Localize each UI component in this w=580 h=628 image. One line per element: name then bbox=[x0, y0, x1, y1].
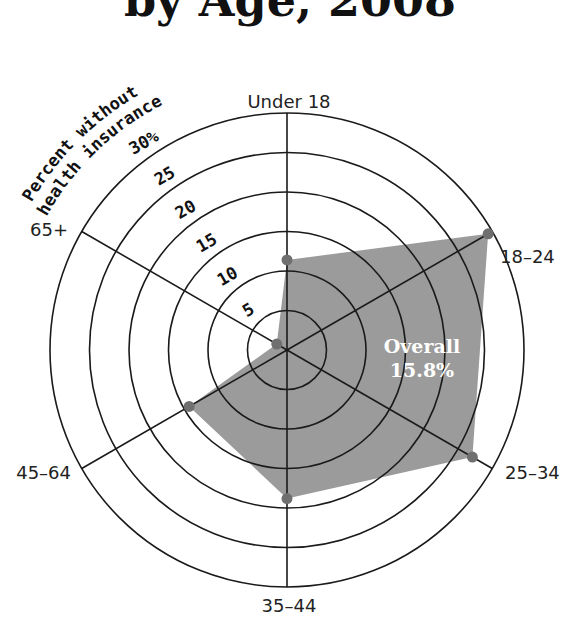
category-label-3: 35–44 bbox=[262, 595, 317, 616]
category-label-4: 45–64 bbox=[16, 462, 71, 483]
data-point-5 bbox=[271, 339, 282, 350]
tick-label-5: 5 bbox=[239, 298, 258, 320]
overall-value: 15.8% bbox=[390, 359, 454, 381]
tick-label-15: 15 bbox=[193, 229, 221, 257]
category-label-5: 65+ bbox=[30, 219, 68, 240]
data-point-2 bbox=[467, 452, 478, 463]
tick-label-20: 20 bbox=[172, 195, 200, 223]
data-point-0 bbox=[282, 254, 293, 265]
category-label-0: Under 18 bbox=[247, 91, 330, 112]
radar-chart: by Age, 2008 Under 1818–2425–3435–4445–6… bbox=[0, 0, 580, 628]
tick-label-10: 10 bbox=[213, 262, 241, 290]
tick-label-25: 25 bbox=[151, 162, 179, 190]
tick-label-30: 30% bbox=[125, 125, 162, 158]
overall-label: Overall bbox=[384, 335, 460, 357]
axis-title-line-1: Percent without bbox=[18, 81, 141, 205]
data-point-1 bbox=[483, 228, 494, 239]
data-point-3 bbox=[282, 493, 293, 504]
category-label-1: 18–24 bbox=[500, 246, 555, 267]
data-point-4 bbox=[184, 401, 195, 412]
chart-title: by Age, 2008 bbox=[124, 0, 456, 27]
spoke-5 bbox=[82, 232, 287, 351]
category-label-2: 25–34 bbox=[505, 462, 560, 483]
